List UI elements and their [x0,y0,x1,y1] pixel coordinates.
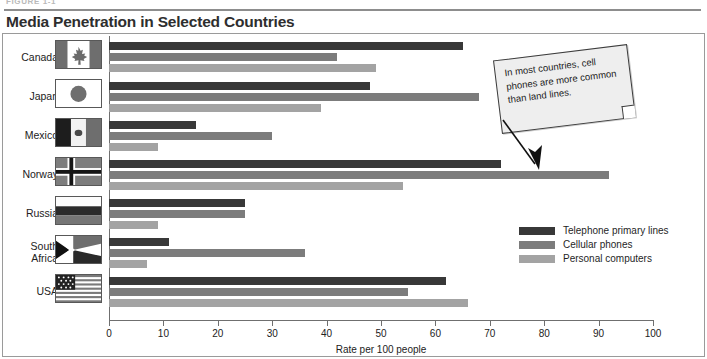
bar [109,260,147,268]
legend-label: Telephone primary lines [563,225,669,236]
flag-south-africa-icon [55,235,102,264]
header-rule [4,9,701,11]
category-label-mexico: Mexico [25,130,58,142]
category-axis: CanadaJapanMexicoNorwayRussiaSouthAfrica… [0,36,109,316]
category-label-south-africa: SouthAfrica [31,241,58,264]
bar [109,104,321,112]
figure-label: FIGURE 1-1 [6,0,56,6]
axis-tick [381,321,382,326]
axis-tick-label: 80 [539,328,550,339]
axis-tick [490,321,491,326]
axis-tick [163,321,164,326]
bar [109,132,272,140]
flag-usa-icon [55,274,102,303]
legend-label: Personal computers [563,253,652,264]
legend-label: Cellular phones [563,239,633,250]
bar [109,221,158,229]
axis-tick-label: 90 [593,328,604,339]
bar [109,238,169,246]
figure-container: FIGURE 1-1 Media Penetration in Selected… [0,0,707,359]
category-label-norway: Norway [22,169,58,181]
flag-canada-icon [55,40,102,69]
axis-tick [435,321,436,326]
flag-japan-icon [55,79,102,108]
bar [109,182,403,190]
axis-tick [272,321,273,326]
bar [109,277,446,285]
bar [109,121,196,129]
bar [109,210,245,218]
axis-tick [599,321,600,326]
axis-tick-label: 40 [321,328,332,339]
axis-tick [109,321,110,326]
note-fold-corner [622,105,636,119]
bar [109,288,408,296]
axis-tick-label: 30 [267,328,278,339]
legend-swatch [519,255,555,263]
legend-swatch [519,227,555,235]
axis-tick [544,321,545,326]
bar [109,64,376,72]
axis-tick [218,321,219,326]
page-title: Media Penetration in Selected Countries [6,13,295,31]
flag-norway-icon [55,157,102,186]
category-label-canada: Canada [21,52,58,64]
annotation-text: In most countries, cell phones are more … [504,52,626,107]
axis-tick-label: 10 [158,328,169,339]
bar [109,299,468,307]
axis-tick [653,321,654,326]
axis-tick [327,321,328,326]
bar [109,160,501,168]
flag-mexico-icon [55,118,102,147]
down-arrow-icon [495,118,575,173]
legend-swatch [519,241,555,249]
x-axis-label: Rate per 100 people [336,344,427,355]
bar [109,143,158,151]
axis-tick-label: 70 [484,328,495,339]
axis-tick-label: 60 [430,328,441,339]
axis-tick-label: 0 [106,328,112,339]
bar [109,42,463,50]
axis-tick-label: 100 [645,328,662,339]
category-label-russia: Russia [26,208,58,220]
bar [109,249,305,257]
axis-tick-label: 50 [375,328,386,339]
category-label-japan: Japan [29,91,58,103]
bar [109,82,370,90]
bar [109,93,479,101]
axis-tick-label: 20 [212,328,223,339]
bar [109,199,245,207]
bar [109,53,337,61]
flag-russia-icon [55,196,102,225]
